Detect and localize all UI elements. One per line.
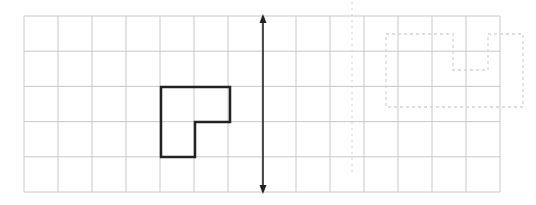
mirror-line bbox=[260, 14, 267, 194]
diagram-canvas bbox=[0, 0, 536, 205]
reflection-grid-diagram bbox=[0, 0, 536, 205]
arrow-up-icon bbox=[260, 14, 267, 23]
square-grid bbox=[24, 16, 500, 192]
arrow-down-icon bbox=[260, 185, 267, 194]
faint-dashed-shape bbox=[386, 34, 523, 107]
